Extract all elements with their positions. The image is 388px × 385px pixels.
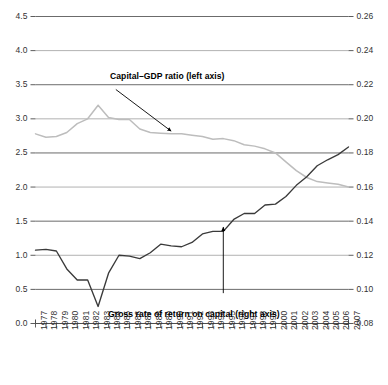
x-axis-tick-label: 2007 xyxy=(352,310,362,329)
x-axis-tick-label: 2002 xyxy=(300,310,310,329)
y-axis-left-tick-label: 1.5 xyxy=(0,216,28,226)
x-axis-tick-label: 1980 xyxy=(70,310,80,329)
x-axis-tick-label: 2006 xyxy=(341,310,351,329)
y-axis-left-tick-label: 1.0 xyxy=(0,250,28,260)
y-axis-right-tick-label: 0.16 xyxy=(357,182,374,192)
series-line-gross-rate-of-return xyxy=(36,147,349,306)
x-axis-tick-label: 1982 xyxy=(91,310,101,329)
axis-lines-group xyxy=(31,17,354,324)
y-axis-right-tick-label: 0.26 xyxy=(357,11,374,21)
annotation-arrows-group xyxy=(116,89,223,293)
x-axis-tick-label: 2000 xyxy=(279,310,289,329)
y-axis-left-tick-label: 2.5 xyxy=(0,147,28,157)
y-axis-left-tick-label: 4.5 xyxy=(0,11,28,21)
annotation-capital-gdp-ratio: Capital–GDP ratio (left axis) xyxy=(110,71,224,81)
data-series-group xyxy=(36,105,349,306)
y-axis-right-tick-label: 0.20 xyxy=(357,113,374,123)
annotation-gross-rate-of-return: Gross rate of return on capital (right a… xyxy=(108,309,280,319)
y-axis-left-tick-label: 0.5 xyxy=(0,284,28,294)
y-axis-left-tick-label: 2.0 xyxy=(0,182,28,192)
x-axis-tick-label: 1977 xyxy=(39,310,49,329)
x-axis-tick-label: 1978 xyxy=(49,310,59,329)
x-axis-tick-label: 2001 xyxy=(289,310,299,329)
y-axis-left-tick-label: 0.0 xyxy=(0,318,28,328)
x-axis-tick-label: 2004 xyxy=(321,310,331,329)
y-axis-right-tick-label: 0.14 xyxy=(357,216,374,226)
x-axis-tick-label: 1979 xyxy=(60,310,70,329)
x-axis-tick-label: 1981 xyxy=(81,310,91,329)
y-axis-left-tick-label: 3.0 xyxy=(0,113,28,123)
y-axis-left-tick-label: 3.5 xyxy=(0,79,28,89)
y-axis-left-tick-label: 4.0 xyxy=(0,45,28,55)
x-axis-tick-label: 2005 xyxy=(331,310,341,329)
series-line-capital-gdp-ratio xyxy=(36,105,349,187)
y-axis-right-tick-label: 0.24 xyxy=(357,45,374,55)
capital-gdp-and-return-chart: 0.00.51.01.52.02.53.03.54.04.5 0.080.100… xyxy=(0,0,388,385)
gridlines-group xyxy=(36,17,349,290)
annotation-arrow-capital-gdp xyxy=(116,89,171,131)
y-axis-right-tick-label: 0.22 xyxy=(357,79,374,89)
x-axis-tick-label: 2003 xyxy=(310,310,320,329)
y-axis-right-tick-label: 0.12 xyxy=(357,250,374,260)
y-axis-right-tick-label: 0.10 xyxy=(357,284,374,294)
y-axis-right-tick-label: 0.18 xyxy=(357,147,374,157)
